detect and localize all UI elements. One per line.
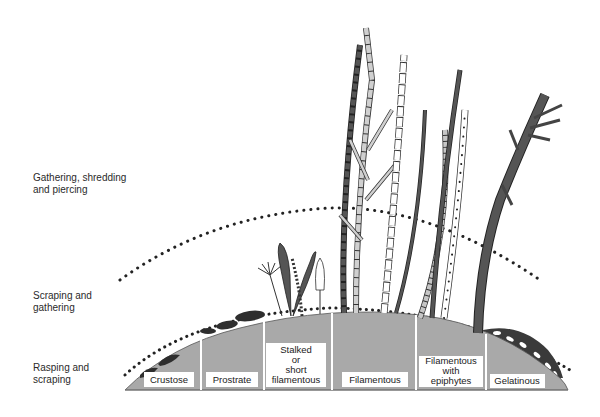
svg-text:Gelatinous: Gelatinous [494, 375, 540, 386]
svg-text:epiphytes: epiphytes [431, 375, 472, 386]
filamentous-algae [340, 28, 425, 313]
filamentous-with-epiphytes [420, 70, 465, 318]
tall-branched-alga [478, 95, 562, 333]
upper-zone-boundary [120, 208, 540, 280]
label-box-crustose: Crustose [144, 372, 194, 387]
stalked-algae [258, 243, 325, 316]
svg-text:Crustose: Crustose [150, 374, 188, 385]
svg-text:Prostrate: Prostrate [213, 374, 252, 385]
label-box-prostrate: Prostrate [206, 372, 258, 387]
label-box-stalked: Stalked or short filamentous [266, 343, 326, 387]
svg-text:Filamentous: Filamentous [349, 374, 401, 385]
periphyton-diagram: Crustose Prostrate Stalked or short fila… [0, 0, 600, 417]
label-box-filamentous: Filamentous [342, 372, 408, 387]
label-box-gelatinous: Gelatinous [490, 374, 545, 388]
svg-text:filamentous: filamentous [272, 374, 321, 385]
label-box-filamentous-with-epiphytes: Filamentous with epiphytes [419, 355, 483, 387]
